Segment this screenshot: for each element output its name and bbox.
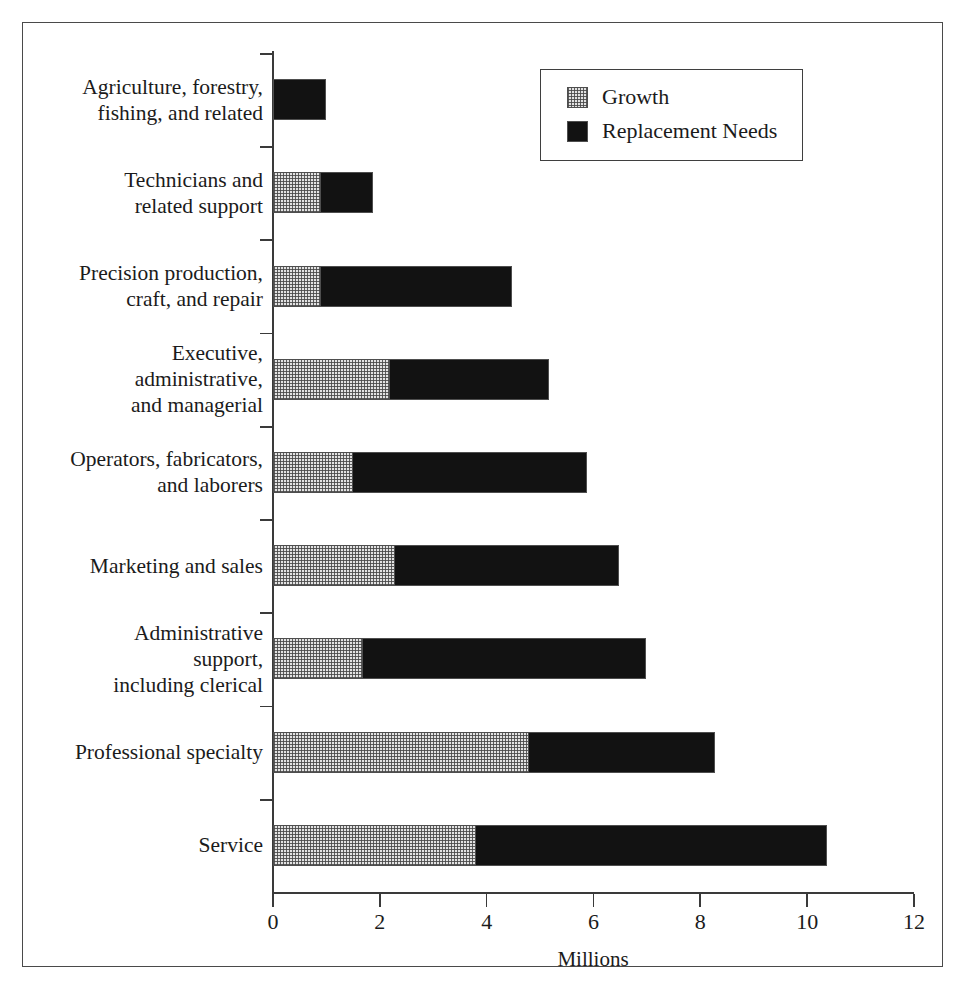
stacked-bar[interactable]	[273, 452, 914, 493]
stacked-bar[interactable]	[273, 638, 914, 679]
x-axis-tick-label: 4	[457, 909, 517, 935]
y-axis-tick	[260, 426, 273, 428]
figure-frame: Agriculture, forestry, fishing, and rela…	[22, 22, 943, 967]
y-axis-tick	[260, 53, 273, 55]
chart-category-row: Professional specialty	[23, 706, 944, 799]
bar-segment-replacement-needs[interactable]	[528, 732, 715, 773]
category-axis-label: Agriculture, forestry, fishing, and rela…	[0, 74, 263, 126]
growth-swatch-icon	[567, 87, 588, 108]
bar-segment-replacement-needs[interactable]	[320, 266, 512, 307]
x-axis-tick	[272, 894, 274, 907]
bar-segment-growth[interactable]	[273, 359, 391, 400]
legend-label-growth: Growth	[602, 83, 669, 111]
legend-item-growth[interactable]: Growth	[541, 80, 802, 114]
y-axis-tick	[260, 333, 273, 335]
chart-category-row: Marketing and sales	[23, 519, 944, 612]
category-axis-label: Administrative support, including cleric…	[0, 620, 263, 698]
bar-segment-replacement-needs[interactable]	[389, 359, 549, 400]
category-axis-label: Executive, administrative, and manageria…	[0, 340, 263, 418]
x-axis-tick-label: 8	[670, 909, 730, 935]
y-axis-tick	[260, 519, 273, 521]
y-axis-tick	[260, 239, 273, 241]
x-axis-tick-label: 2	[350, 909, 410, 935]
stacked-bar[interactable]	[273, 359, 914, 400]
bar-segment-replacement-needs[interactable]	[352, 452, 587, 493]
bar-segment-replacement-needs[interactable]	[362, 638, 645, 679]
y-axis-tick	[260, 799, 273, 801]
category-axis-label: Service	[0, 832, 263, 858]
chart-category-row: Precision production, craft, and repair	[23, 239, 944, 332]
replacement-needs-swatch-icon	[567, 121, 588, 142]
bar-segment-replacement-needs[interactable]	[394, 545, 618, 586]
stacked-bar[interactable]	[273, 825, 914, 866]
category-axis-label: Professional specialty	[0, 739, 263, 765]
bar-segment-growth[interactable]	[273, 172, 321, 213]
x-axis-tick	[913, 894, 915, 907]
bar-segment-growth[interactable]	[273, 266, 321, 307]
legend-label-replacement-needs: Replacement Needs	[602, 117, 777, 145]
x-axis-tick	[593, 894, 595, 907]
bar-segment-growth[interactable]	[273, 452, 353, 493]
stacked-bar[interactable]	[273, 732, 914, 773]
y-axis-tick	[260, 612, 273, 614]
stacked-bar[interactable]	[273, 266, 914, 307]
category-axis-label: Precision production, craft, and repair	[0, 260, 263, 312]
bar-segment-growth[interactable]	[273, 545, 396, 586]
x-axis-tick	[806, 894, 808, 907]
chart-category-row: Executive, administrative, and manageria…	[23, 333, 944, 426]
chart-legend: Growth Replacement Needs	[540, 69, 803, 161]
x-axis-tick-label: 12	[884, 909, 944, 935]
y-axis-tick	[260, 146, 273, 148]
category-axis-label: Marketing and sales	[0, 553, 263, 579]
bar-segment-growth[interactable]	[273, 825, 476, 866]
y-axis-tick	[260, 706, 273, 708]
stacked-bar[interactable]	[273, 545, 914, 586]
x-axis-tick	[699, 894, 701, 907]
x-axis-tick-label: 6	[564, 909, 624, 935]
x-axis-tick-label: 10	[777, 909, 837, 935]
chart-category-row: Administrative support, including cleric…	[23, 612, 944, 705]
x-axis-tick	[486, 894, 488, 907]
x-axis-title: Millions	[272, 947, 914, 972]
legend-item-replacement-needs[interactable]: Replacement Needs	[541, 114, 802, 148]
category-axis-label: Technicians and related support	[0, 167, 263, 219]
chart-plot-area: Agriculture, forestry, fishing, and rela…	[23, 23, 944, 968]
bar-segment-growth[interactable]	[273, 732, 529, 773]
chart-category-row: Agriculture, forestry, fishing, and rela…	[23, 53, 944, 146]
chart-category-row: Operators, fabricators, and laborers	[23, 426, 944, 519]
chart-category-row: Technicians and related support	[23, 146, 944, 239]
bar-segment-replacement-needs[interactable]	[273, 79, 326, 120]
category-axis-label: Operators, fabricators, and laborers	[0, 446, 263, 498]
bar-segment-replacement-needs[interactable]	[475, 825, 828, 866]
bar-segment-growth[interactable]	[273, 638, 364, 679]
x-axis-tick	[379, 894, 381, 907]
chart-category-row: Service	[23, 799, 944, 892]
stacked-bar[interactable]	[273, 172, 914, 213]
bar-segment-replacement-needs[interactable]	[320, 172, 373, 213]
x-axis-tick-label: 0	[243, 909, 303, 935]
